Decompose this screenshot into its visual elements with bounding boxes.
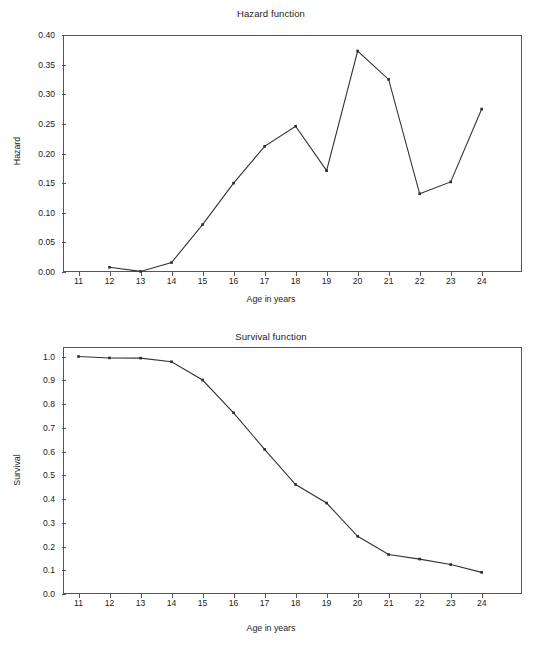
- survival-y-tick-mark: [62, 547, 66, 548]
- series-data-point: [170, 261, 173, 264]
- survival-x-tick-label: 21: [384, 598, 394, 608]
- hazard-chart-panel: Hazard function 0.400.350.300.250.200.15…: [0, 0, 542, 323]
- survival-y-tick-label: 0.1: [43, 565, 55, 575]
- survival-y-tick-mark: [62, 452, 66, 453]
- survival-y-tick-label: 1.0: [43, 352, 55, 362]
- series-polyline: [79, 357, 482, 573]
- series-data-point: [201, 379, 204, 382]
- series-data-point: [480, 571, 483, 574]
- series-data-point: [108, 357, 111, 360]
- series-data-point: [449, 181, 452, 184]
- survival-y-tick-mark: [62, 404, 66, 405]
- series-data-point: [263, 448, 266, 451]
- survival-y-tick-mark: [62, 380, 66, 381]
- survival-x-tick-label: 13: [136, 598, 146, 608]
- survival-y-axis-title: Survival: [12, 440, 22, 500]
- survival-y-tick-label: 0.2: [43, 542, 55, 552]
- series-data-point: [418, 192, 421, 195]
- survival-x-tick-label: 15: [198, 598, 208, 608]
- survival-x-tick-label: 18: [291, 598, 301, 608]
- survival-y-tick-mark: [62, 357, 66, 358]
- hazard-x-axis-title: Age in years: [0, 294, 542, 304]
- survival-y-tick-label: 0.6: [43, 447, 55, 457]
- survival-x-tick-mark: [79, 594, 80, 598]
- survival-y-tick-label: 0.7: [43, 423, 55, 433]
- survival-x-tick-mark: [358, 594, 359, 598]
- survival-x-tick-mark: [110, 594, 111, 598]
- survival-y-tick-mark: [62, 428, 66, 429]
- series-data-point: [232, 411, 235, 414]
- survival-x-tick-mark: [265, 594, 266, 598]
- survival-x-tick-mark: [389, 594, 390, 598]
- survival-x-tick-mark: [296, 594, 297, 598]
- survival-y-tick-label: 0.3: [43, 518, 55, 528]
- survival-x-tick-label: 16: [229, 598, 239, 608]
- survival-x-tick-mark: [420, 594, 421, 598]
- survival-x-tick-mark: [327, 594, 328, 598]
- survival-x-tick-label: 19: [322, 598, 332, 608]
- series-data-point: [356, 535, 359, 538]
- series-data-point: [139, 270, 142, 273]
- survival-y-axis: 1.00.90.80.70.60.50.40.30.20.10.0: [3, 347, 55, 594]
- series-data-point: [480, 108, 483, 111]
- series-data-point: [325, 169, 328, 172]
- survival-x-tick-mark: [141, 594, 142, 598]
- series-data-point: [170, 360, 173, 363]
- series-data-point: [294, 125, 297, 128]
- hazard-y-axis-title: Hazard: [12, 121, 22, 181]
- series-data-point: [294, 483, 297, 486]
- survival-y-tick-label: 0.4: [43, 494, 55, 504]
- survival-y-tick-label: 0.9: [43, 375, 55, 385]
- survival-x-tick-label: 14: [167, 598, 177, 608]
- hazard-series-layer: [0, 0, 542, 323]
- series-data-point: [418, 558, 421, 561]
- series-data-point: [77, 355, 80, 358]
- survival-y-tick-label: 0.0: [43, 589, 55, 599]
- series-data-point: [449, 563, 452, 566]
- series-data-point: [108, 266, 111, 269]
- survival-y-tick-mark: [62, 499, 66, 500]
- series-data-point: [263, 145, 266, 148]
- survival-y-tick-label: 0.5: [43, 470, 55, 480]
- survival-x-tick-mark: [451, 594, 452, 598]
- survival-x-tick-label: 22: [415, 598, 425, 608]
- survival-x-tick-label: 17: [260, 598, 270, 608]
- series-polyline: [110, 51, 482, 271]
- figure-container: Hazard function 0.400.350.300.250.200.15…: [0, 0, 542, 646]
- series-data-point: [232, 182, 235, 185]
- survival-y-tick-mark: [62, 570, 66, 571]
- series-data-point: [139, 357, 142, 360]
- survival-y-tick-mark: [62, 475, 66, 476]
- survival-x-tick-mark: [172, 594, 173, 598]
- survival-x-axis-title: Age in years: [0, 623, 542, 633]
- survival-y-tick-mark: [62, 594, 66, 595]
- series-data-point: [325, 502, 328, 505]
- survival-x-tick-label: 20: [353, 598, 363, 608]
- survival-x-tick-label: 12: [105, 598, 115, 608]
- survival-x-tick-mark: [234, 594, 235, 598]
- survival-x-tick-label: 11: [74, 598, 83, 608]
- survival-x-tick-label: 24: [477, 598, 487, 608]
- survival-y-tick-mark: [62, 523, 66, 524]
- series-data-point: [201, 223, 204, 226]
- series-data-point: [387, 553, 390, 556]
- survival-x-tick-mark: [203, 594, 204, 598]
- survival-x-tick-label: 23: [446, 598, 456, 608]
- survival-y-tick-label: 0.8: [43, 399, 55, 409]
- survival-x-tick-mark: [482, 594, 483, 598]
- series-data-point: [387, 78, 390, 81]
- series-data-point: [356, 50, 359, 53]
